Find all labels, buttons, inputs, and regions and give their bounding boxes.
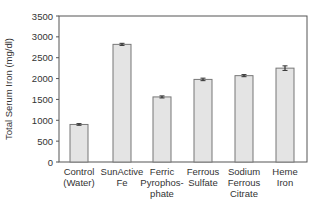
bar-chart: 0500100015002000250030003500 Control(Wat… xyxy=(0,0,324,215)
y-axis: 0500100015002000250030003500 xyxy=(32,11,59,168)
y-tick-label: 500 xyxy=(37,136,53,147)
x-category-label: Ferrous xyxy=(187,166,220,177)
y-tick-label: 3500 xyxy=(32,11,53,22)
x-category-label: Ferrous xyxy=(228,177,261,188)
x-category-label: Sulfate xyxy=(188,177,218,188)
x-category-label: Iron xyxy=(277,177,293,188)
x-category-label: Ferric xyxy=(150,166,175,177)
y-tick-label: 2500 xyxy=(32,52,53,63)
y-tick-label: 2000 xyxy=(32,73,53,84)
bar xyxy=(194,79,212,162)
bar xyxy=(153,97,171,162)
bar xyxy=(276,68,294,162)
x-category-label: Citrate xyxy=(230,188,258,199)
y-tick-label: 3000 xyxy=(32,31,53,42)
x-category-label: Control xyxy=(64,166,95,177)
x-category-label: Sodium xyxy=(228,166,260,177)
x-category-label: Pyrophos- xyxy=(140,177,183,188)
x-category-label: (Water) xyxy=(63,177,94,188)
bar xyxy=(113,44,131,162)
y-tick-label: 1000 xyxy=(32,115,53,126)
x-category-label: Fe xyxy=(116,177,127,188)
bar xyxy=(70,124,88,162)
plot-frame xyxy=(59,16,307,162)
x-category-label: SunActive xyxy=(101,166,144,177)
x-axis-labels: Control(Water)SunActiveFeFerricPyrophos-… xyxy=(63,166,297,199)
plot-border xyxy=(59,16,307,162)
bar xyxy=(235,76,253,162)
y-axis-label: Total Serum Iron (mg/dl) xyxy=(3,38,14,140)
y-tick-label: 1500 xyxy=(32,94,53,105)
x-category-label: phate xyxy=(150,188,174,199)
x-category-label: Heme xyxy=(272,166,297,177)
y-tick-label: 0 xyxy=(48,157,53,168)
bars xyxy=(70,43,294,162)
